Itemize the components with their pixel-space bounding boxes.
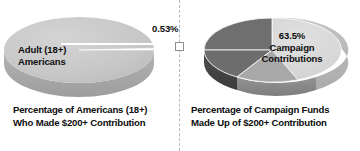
slice-label-line2: Americans	[18, 56, 66, 68]
pie-slice-label-adult-americans: Adult (18+) Americans	[18, 44, 66, 67]
panel-divider-handle[interactable]	[175, 42, 184, 51]
caption-campaign-funds: Percentage of Campaign Funds Made Up of …	[191, 104, 329, 129]
pie-chart-campaign-funds: 63.5% Campaign Contributions	[180, 4, 360, 96]
panel-adult-americans: Adult (18+) Americans 0.53% Percentage o…	[0, 0, 180, 151]
panel-divider	[179, 0, 180, 151]
data-label-0-53-percent: 0.53%	[152, 23, 178, 35]
slice-label-line2: Contributions	[236, 53, 348, 65]
slice-label-line1: Campaign	[236, 42, 348, 54]
caption-line2: Who Made $200+ Contribution	[13, 117, 147, 130]
caption-adult-americans: Percentage of Americans (18+) Who Made $…	[13, 104, 147, 129]
pie-slice-label-campaign-contributions: 63.5% Campaign Contributions	[236, 30, 348, 65]
clipped-footer-text	[0, 144, 360, 151]
caption-line1: Percentage of Americans (18+)	[13, 104, 147, 117]
data-label-63-5-percent: 63.5%	[236, 30, 348, 42]
dual-pie-chart-figure: Adult (18+) Americans 0.53% Percentage o…	[0, 0, 360, 151]
caption-line1: Percentage of Campaign Funds	[191, 104, 329, 117]
panel-campaign-funds: 63.5% Campaign Contributions Percentage …	[180, 0, 360, 151]
caption-line2: Made Up of $200+ Contribution	[191, 117, 329, 130]
pie-chart-adult-americans: Adult (18+) Americans 0.53%	[0, 4, 180, 96]
leader-line-left	[61, 43, 179, 45]
slice-label-line1: Adult (18+)	[18, 44, 66, 56]
